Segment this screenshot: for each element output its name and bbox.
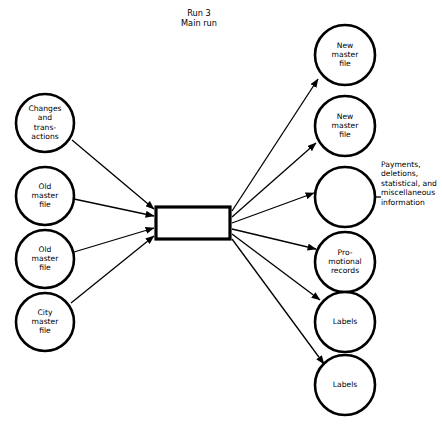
- diagram-title-line-0: Run 3: [187, 8, 211, 18]
- old-master-file-1-label-line-2: file: [39, 200, 51, 209]
- annotation-text-group: Payments,deletions,statistical, andmisce…: [381, 160, 437, 207]
- payments-annotation-line-2: statistical, and: [381, 179, 437, 188]
- edge-city-master-to-process: [71, 236, 154, 303]
- payments-annotation-line-3: miscellaneous: [381, 188, 435, 197]
- edge-changes-to-process: [72, 140, 154, 209]
- edge-process-to-payments: [232, 193, 314, 223]
- node-old-master-file-2: Oldmasterfile: [16, 230, 74, 288]
- edge-old-master-1-to-process: [74, 199, 154, 216]
- edge-process-to-new-master-2: [232, 143, 316, 217]
- city-master-file-label-line-1: master: [32, 317, 60, 326]
- city-master-file-label-line-0: City: [38, 308, 53, 317]
- node-payments-deletions-circle: [315, 167, 375, 227]
- diagram-title-line-1: Main run: [181, 18, 217, 28]
- new-master-file-2-label-line-0: New: [337, 112, 354, 121]
- new-master-file-1-label-line-2: file: [339, 59, 351, 68]
- node-new-master-file-1: Newmasterfile: [315, 25, 375, 85]
- diagram-title-group: Run 3Main run: [181, 8, 217, 28]
- output-nodes-group: NewmasterfileNewmasterfilePro-motionalre…: [315, 25, 375, 415]
- changes-and-transactions-label-line-1: and: [38, 113, 52, 122]
- node-old-master-file-1: Oldmasterfile: [16, 167, 74, 225]
- flowchart-diagram: Changesandtrans-actionsOldmasterfileOldm…: [0, 0, 442, 428]
- payments-annotation-line-1: deletions,: [381, 169, 418, 178]
- edge-process-to-labels-1: [232, 234, 320, 300]
- old-master-file-1-label-line-1: master: [32, 191, 60, 200]
- changes-and-transactions-label-line-3: actions: [31, 132, 58, 141]
- new-master-file-2-label-line-2: file: [339, 130, 351, 139]
- edge-process-to-promotional: [232, 229, 316, 249]
- output-edges-group: [232, 79, 324, 364]
- promotional-records-label-line-0: Pro-: [338, 248, 353, 257]
- process-node-group: [156, 207, 230, 239]
- changes-and-transactions-label-line-0: Changes: [28, 104, 61, 113]
- process-box: [156, 207, 230, 239]
- diagram-canvas: Changesandtrans-actionsOldmasterfileOldm…: [0, 0, 442, 428]
- promotional-records-label-line-2: records: [331, 266, 359, 275]
- node-new-master-file-2: Newmasterfile: [315, 96, 375, 156]
- node-labels-1: Labels: [315, 292, 375, 352]
- node-city-master-file: Citymasterfile: [16, 293, 74, 351]
- labels-2-label-line-0: Labels: [333, 380, 357, 389]
- edge-old-master-2-to-process: [74, 228, 154, 252]
- input-nodes-group: Changesandtrans-actionsOldmasterfileOldm…: [16, 94, 74, 351]
- node-labels-2: Labels: [315, 355, 375, 415]
- old-master-file-2-label-line-1: master: [32, 254, 60, 263]
- labels-1-label-line-0: Labels: [333, 317, 357, 326]
- promotional-records-label-line-1: motional: [328, 257, 361, 266]
- old-master-file-2-label-line-0: Old: [39, 245, 52, 254]
- city-master-file-label-line-2: file: [39, 326, 51, 335]
- payments-annotation-line-0: Payments,: [381, 160, 421, 169]
- old-master-file-1-label-line-0: Old: [39, 182, 52, 191]
- input-edges-group: [71, 140, 154, 303]
- payments-annotation-line-4: information: [381, 198, 425, 207]
- node-promotional-records: Pro-motionalrecords: [315, 232, 375, 292]
- payments-deletions-circle-shape: [315, 167, 375, 227]
- node-changes-and-transactions: Changesandtrans-actions: [16, 94, 74, 152]
- edge-process-to-labels-2: [232, 239, 324, 364]
- new-master-file-2-label-line-1: master: [332, 121, 360, 130]
- changes-and-transactions-label-line-2: trans-: [34, 123, 57, 132]
- new-master-file-1-label-line-1: master: [332, 50, 360, 59]
- edge-process-to-new-master-1: [232, 79, 318, 211]
- old-master-file-2-label-line-2: file: [39, 263, 51, 272]
- new-master-file-1-label-line-0: New: [337, 41, 354, 50]
